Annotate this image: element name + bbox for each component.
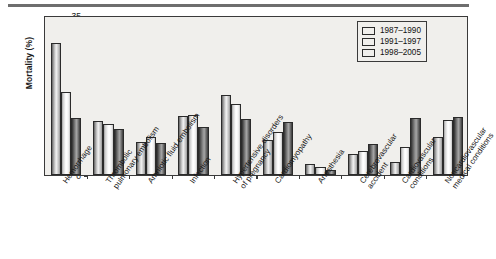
bar [305, 164, 315, 175]
legend-label: 1987–1990 [380, 26, 421, 35]
legend-swatch-1987-1990 [362, 27, 375, 35]
bar-group [93, 17, 124, 175]
bar-group [221, 17, 252, 175]
bar [51, 43, 61, 175]
bar [93, 121, 103, 175]
legend-label: 1998–2005 [380, 48, 421, 57]
y-axis-title: Mortality (%) [24, 8, 34, 118]
legend-item: 1991–1997 [362, 36, 421, 47]
bar-group [305, 17, 336, 175]
top-rule [8, 4, 469, 7]
legend-item: 1987–1990 [362, 25, 421, 36]
chart-legend: 1987–1990 1991–1997 1998–2005 [357, 21, 427, 62]
bar-group [51, 17, 82, 175]
legend-swatch-1991-1997 [362, 38, 375, 46]
bar [61, 92, 71, 175]
bar-group [178, 17, 209, 175]
legend-label: 1991–1997 [380, 37, 421, 46]
x-axis-labels: HemorrhageThrombolic pulmonary embolismA… [44, 178, 477, 259]
legend-item: 1998–2005 [362, 47, 421, 58]
bar [348, 154, 358, 175]
legend-swatch-1998-2005 [362, 49, 375, 57]
bar [221, 95, 231, 175]
bar [231, 104, 241, 175]
